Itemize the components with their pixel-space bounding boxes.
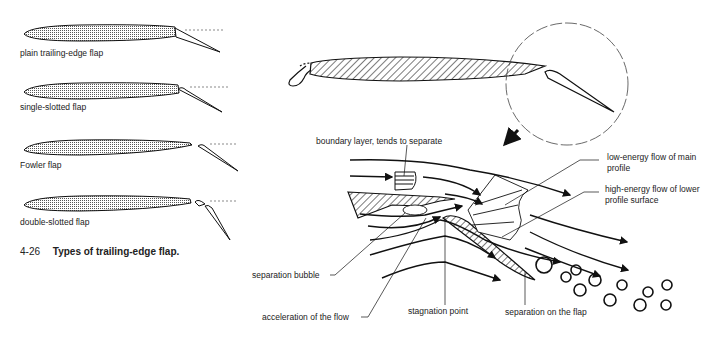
slotted-flap-detail <box>545 70 614 112</box>
label-acceleration: acceleration of the flow <box>262 312 349 322</box>
label-stagnation-point: stagnation point <box>408 306 468 316</box>
label-high-energy-2: profile surface <box>605 195 658 205</box>
velocity-profile <box>468 175 528 240</box>
label-double-slotted-flap: double-slotted flap <box>20 217 89 227</box>
label-fowler-flap: Fowler flap <box>20 160 62 170</box>
zoom-arrow-icon <box>505 130 518 144</box>
label-low-energy-1: low-energy flow of main <box>607 152 696 162</box>
figure-title: Types of trailing-edge flap. <box>53 246 180 257</box>
label-high-energy-1: high-energy flow of lower <box>605 184 700 194</box>
wake-vortices <box>536 257 672 311</box>
separation-bubble <box>403 205 427 215</box>
figure-number: 4-26 <box>20 246 40 257</box>
label-separation-bubble: separation bubble <box>252 270 320 280</box>
label-low-energy-2: profile <box>607 163 630 173</box>
label-boundary-layer: boundary layer, tends to separate <box>316 136 442 146</box>
label-separation-on-flap: separation on the flap <box>505 307 587 317</box>
label-plain-flap: plain trailing-edge flap <box>20 48 103 58</box>
main-airfoil <box>289 57 545 86</box>
label-single-slotted-flap: single-slotted flap <box>20 102 86 112</box>
boundary-layer-profile <box>395 172 416 190</box>
figure-caption: 4-26 Types of trailing-edge flap. <box>20 246 179 257</box>
